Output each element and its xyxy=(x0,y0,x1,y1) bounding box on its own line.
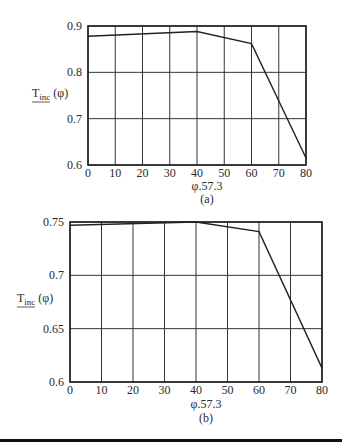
y-tick-label: 0.6 xyxy=(49,375,64,389)
x-axis-label: φ.57.3 xyxy=(191,397,222,411)
x-tick-label: 70 xyxy=(285,383,297,397)
chart-b: 010203040506070800.60.650.70.75φ.57.3(b)… xyxy=(0,200,342,432)
y-tick-label: 0.6 xyxy=(67,158,82,172)
x-tick-label: 80 xyxy=(300,166,312,180)
x-tick-label: 60 xyxy=(246,166,258,180)
y-axis-label: Tinc(φ) xyxy=(32,86,68,102)
grid xyxy=(70,222,322,382)
y-tick-label: 0.8 xyxy=(67,65,82,79)
y-tick-label: 0.7 xyxy=(67,112,82,126)
x-tick-label: 20 xyxy=(127,383,139,397)
x-axis-label: φ.57.3 xyxy=(192,179,223,193)
chart-a-plot: 010203040506070800.60.70.80.9φ.57.3(a)Ti… xyxy=(0,0,342,215)
panel-label: (b) xyxy=(199,411,213,425)
x-tick-label: 50 xyxy=(222,383,234,397)
y-axis-label: Tinc(φ) xyxy=(17,291,53,307)
x-tick-label: 30 xyxy=(164,166,176,180)
x-tick-label: 50 xyxy=(218,166,230,180)
chart-b-plot: 010203040506070800.60.650.70.75φ.57.3(b)… xyxy=(0,200,342,435)
x-tick-label: 10 xyxy=(96,383,108,397)
x-tick-label: 40 xyxy=(190,383,202,397)
x-tick-label: 70 xyxy=(273,166,285,180)
y-tick-label: 0.9 xyxy=(67,19,82,33)
x-tick-label: 0 xyxy=(85,166,91,180)
bottom-rule xyxy=(0,439,342,442)
x-tick-label: 10 xyxy=(109,166,121,180)
x-tick-label: 30 xyxy=(159,383,171,397)
x-tick-label: 80 xyxy=(316,383,328,397)
x-tick-label: 20 xyxy=(137,166,149,180)
y-tick-label: 0.65 xyxy=(43,322,64,336)
y-tick-label: 0.75 xyxy=(43,215,64,229)
y-tick-label: 0.7 xyxy=(49,268,64,282)
x-tick-label: 40 xyxy=(191,166,203,180)
x-tick-label: 0 xyxy=(67,383,73,397)
x-tick-label: 60 xyxy=(253,383,265,397)
chart-a: 010203040506070800.60.70.80.9φ.57.3(a)Ti… xyxy=(0,0,342,200)
grid xyxy=(88,26,306,165)
